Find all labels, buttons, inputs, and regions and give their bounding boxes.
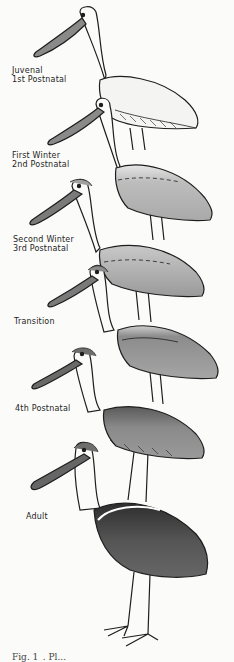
- stage-label-juvenal: Juvenal 1st Postnatal: [12, 66, 67, 84]
- stage-label-line1: Adult: [26, 512, 48, 521]
- stage-label-line1: Juvenal: [12, 66, 67, 75]
- bird-adult: [31, 442, 207, 646]
- stage-label-line1: First Winter: [12, 151, 69, 160]
- figure-caption: Fig. 1_. Pl...: [12, 652, 66, 662]
- stage-label-adult: Adult: [26, 512, 48, 521]
- stage-label-line2: 3rd Postnatal: [13, 244, 74, 253]
- stage-label-line2: 1st Postnatal: [12, 75, 67, 84]
- stage-label-line1: Second Winter: [13, 235, 74, 244]
- stage-label-second-winter: Second Winter 3rd Postnatal: [13, 235, 74, 253]
- stage-label-line2: 2nd Postnatal: [12, 160, 69, 169]
- stage-label-first-winter: First Winter 2nd Postnatal: [12, 151, 69, 169]
- stage-label-4th-postnatal: 4th Postnatal: [15, 404, 70, 413]
- stage-label-line1: 4th Postnatal: [15, 404, 70, 413]
- stage-label-line1: Transition: [14, 317, 55, 326]
- stage-label-transition: Transition: [14, 317, 55, 326]
